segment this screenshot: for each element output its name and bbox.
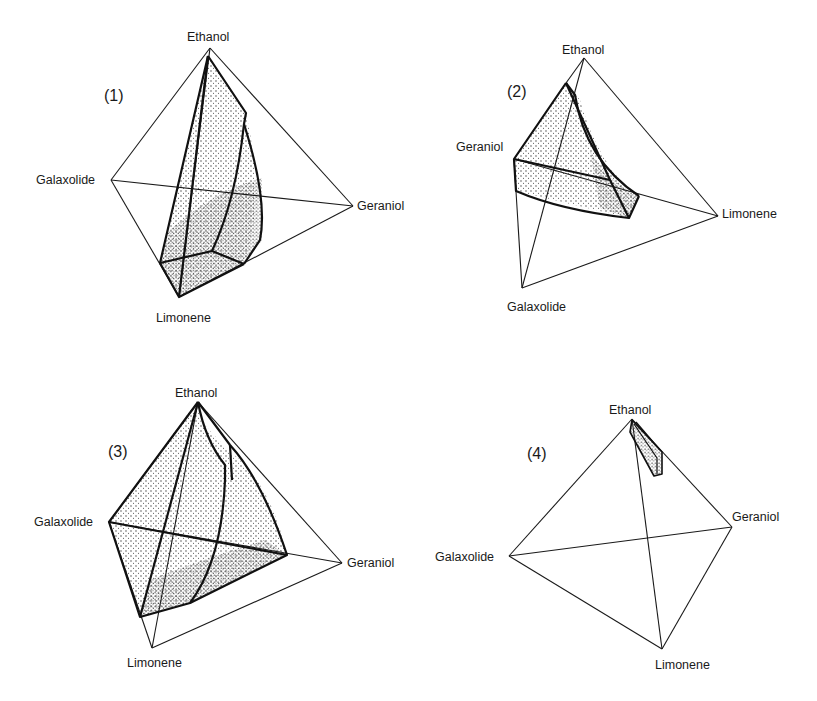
panel-1: (1) Ethanol Galaxolide Geraniol Limonene [36,30,404,325]
vertex-label-bottom: Limonene [655,658,710,672]
vertex-label-left: Galaxolide [34,515,93,529]
panel-3: (3) Ethanol Galaxolide Geraniol Limonene [34,386,394,670]
vertex-label-right: Limonene [722,207,777,221]
vertex-label-top: Ethanol [609,403,651,417]
panel-2: (2) Ethanol Geraniol Limonene Galaxolide [456,43,777,314]
vertex-label-left: Geraniol [456,140,503,154]
tetrahedral-phase-diagrams: (1) Ethanol Galaxolide Geraniol Limonene… [0,0,817,701]
panel-4: (4) Ethanol Galaxolide Geraniol Limonene [435,403,779,672]
vertex-label-bottom: Limonene [127,656,182,670]
panel-label: (1) [104,87,124,104]
vertex-label-right: Geraniol [347,556,394,570]
vertex-label-right: Geraniol [732,510,779,524]
vertex-label-right: Geraniol [357,199,404,213]
panel-label: (2) [507,83,527,100]
panel-label: (3) [108,443,128,460]
vertex-label-top: Ethanol [187,30,229,44]
vertex-label-top: Ethanol [175,386,217,400]
vertex-label-bottom: Galaxolide [507,300,566,314]
vertex-label-left: Galaxolide [435,550,494,564]
vertex-label-left: Galaxolide [36,173,95,187]
vertex-label-bottom: Limonene [156,311,211,325]
panel-label: (4) [527,445,547,462]
vertex-label-top: Ethanol [562,43,604,57]
